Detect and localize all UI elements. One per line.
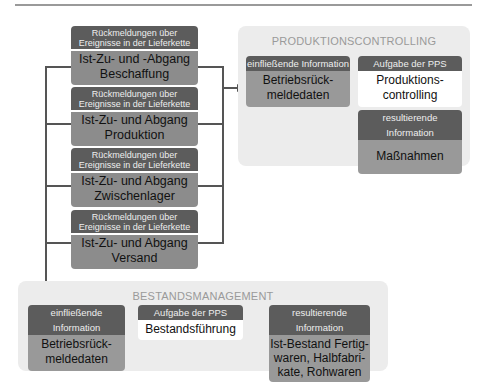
input-information-card: einfließende Information Betriebsrück- m…: [246, 56, 350, 107]
top-rule: [15, 4, 472, 6]
event-header: Rückmeldungen über Ereignisse in der Lie…: [71, 87, 198, 112]
result-information-card: resultierende Information Ist-Bestand Fe…: [269, 305, 370, 382]
panel-title: BESTANDSMANAGEMENT: [18, 290, 388, 302]
produktionscontrolling-panel: PRODUKTIONSCONTROLLING einfließende Info…: [238, 26, 470, 166]
event-header: Rückmeldungen über Ereignisse in der Lie…: [71, 148, 198, 173]
event-body: Ist-Zu- und Abgang Versand: [71, 235, 198, 269]
pps-task-card: Aufgabe der PPS Bestandsführung: [138, 305, 243, 340]
event-header: Rückmeldungen über Ereignisse in der Lie…: [71, 26, 198, 51]
event-box-zwischenlager: Rückmeldungen über Ereignisse in der Lie…: [71, 148, 198, 207]
event-box-produktion: Rückmeldungen über Ereignisse in der Lie…: [71, 87, 198, 146]
input-information-card: einfließende Information Betriebsrück- m…: [28, 305, 125, 371]
event-box-versand: Rückmeldungen über Ereignisse in der Lie…: [71, 210, 198, 269]
event-body: Ist-Zu- und -Abgang Beschaffung: [71, 51, 198, 85]
result-information-card: resultierende Information Maßnahmen: [358, 110, 462, 174]
event-header: Rückmeldungen über Ereignisse in der Lie…: [71, 210, 198, 235]
pps-task-card: Aufgabe der PPS Produktions- controlling: [358, 56, 462, 107]
bestandsmanagement-panel: BESTANDSMANAGEMENT einfließende Informat…: [18, 281, 388, 371]
event-body: Ist-Zu- und Abgang Zwischenlager: [71, 173, 198, 207]
event-box-beschaffung: Rückmeldungen über Ereignisse in der Lie…: [71, 26, 198, 85]
event-body: Ist-Zu- und Abgang Produktion: [71, 112, 198, 146]
panel-title: PRODUKTIONSCONTROLLING: [238, 35, 470, 47]
